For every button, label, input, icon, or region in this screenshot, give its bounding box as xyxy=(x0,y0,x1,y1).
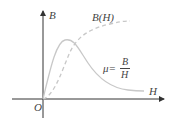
b-h-label: B(H) xyxy=(92,12,114,23)
origin-label: O xyxy=(34,102,42,113)
diagram-canvas xyxy=(0,0,172,124)
mu-curve xyxy=(43,40,144,99)
mu-fraction-num: B xyxy=(122,57,128,67)
x-axis-label: H xyxy=(149,86,157,97)
diagram: B B(H) μ= B H H O xyxy=(0,0,172,124)
mu-fraction-den: H xyxy=(121,70,128,80)
mu-label-left: μ= xyxy=(103,62,116,74)
y-axis-label: B xyxy=(49,10,56,21)
mu-label: μ= xyxy=(103,63,116,74)
